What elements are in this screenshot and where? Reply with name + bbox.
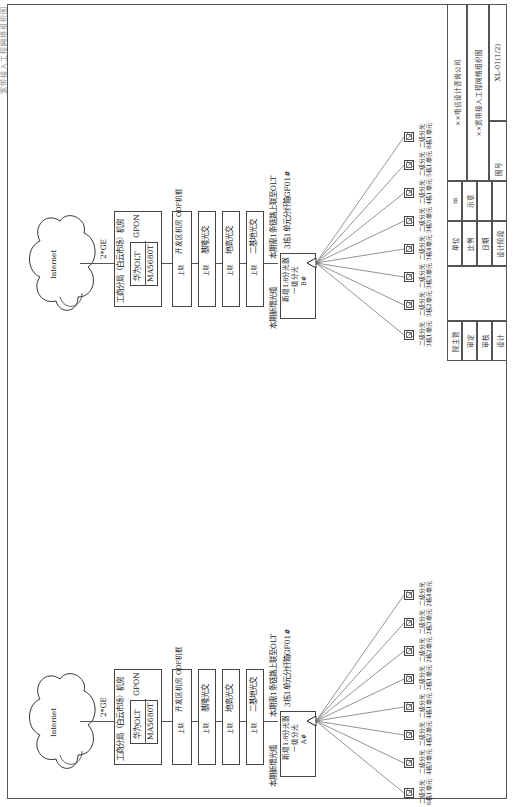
olt-vendor: 华为OLT [134,709,143,739]
cross-box-label: 二基地光交 [250,219,259,254]
olt-device-box: 华为OLT MA5680T [130,700,158,744]
fiber-cross-box: 地高光交 上联 [222,211,240,307]
splitter-id: B# [301,276,308,286]
secondary-splitter-icon [404,674,414,684]
uplink-note: 本期需1条链路上联至OLT [270,176,279,259]
field-label: 比例 [462,221,477,266]
splitter-triangle-icon [306,257,318,269]
secondary-splitter-icon [404,160,414,170]
secondary-splitter-icon [404,702,414,712]
internet-cloud-icon [18,209,104,319]
olt-tech: GPON [133,672,142,696]
splitter-type: 新增1:8分光器 [283,715,290,760]
secondary-splitter-label: 二级分光4栋1单元 [418,179,432,205]
secondary-splitter-label: 二级分光3栋3单元 [418,263,432,289]
role-cell: 设计 [492,321,507,361]
fiber-cross-box: 二基地光交 上联 [246,211,264,307]
odf-box-label: 开发区机房 ODF机框 [176,188,183,254]
secondary-splitter-icon [404,646,414,656]
secondary-splitter-icon [404,188,414,198]
cross-box-label: 地高光交 [226,226,235,254]
drawing-no-label: 图号 [489,121,507,181]
cross-box-label: 二基地光交 [250,677,259,712]
odf-uplink-tag: 上联 [228,264,234,276]
signature-area [447,266,507,321]
odf-uplink-tag: 上联 [204,264,210,276]
splitter-id: A# [301,734,308,744]
cross-box-label: 地高光交 [226,684,235,712]
field-label: 设计阶段 [492,221,507,266]
olt-model: MA5680T [147,245,156,282]
drawing-sheet: 宽带接入工程网络组织图 Internet 2*GE 工商分局（白云市场）机房 华… [0,0,514,807]
cross-box-label: 基隆光交 [202,226,211,254]
secondary-splitter-icon [404,300,414,310]
odf-uplink-tag: 上联 [179,264,185,276]
secondary-splitter-icon [404,244,414,254]
link-label: 2*GE [100,239,109,259]
secondary-splitter-icon [404,730,414,740]
secondary-splitter-label: 二级分光2栋1单元 [418,665,432,691]
fiber-cross-box: 地高光交 上联 [222,669,240,765]
cabinet-note: 3栋1单元分纤箱GF01# [284,170,293,249]
fiber-cross-box: 基隆光交 上联 [198,669,216,765]
field-value: m [447,181,462,221]
odf-uplink-tag: 上联 [252,722,258,734]
olt-tech: GPON [133,214,142,238]
internet-label: Internet [50,708,58,737]
secondary-splitter-label: 二级分光4栋1单元 [418,693,432,719]
odf-box-label: 开发区机房 ODF机框 [176,646,183,712]
secondary-splitter-label: 二级分光3栋1单元 [418,321,432,347]
drawing-number: XL-01(1/2) [489,4,507,121]
secondary-splitter-label: 二级分光2栋4单元 [418,581,432,607]
secondary-splitter-label: 二级分光2栋3单元 [418,609,432,635]
role-cell: 院主管 [447,321,462,361]
uplink-note: 本期需1条链路上联至OLT [270,634,279,717]
odf-uplink-tag: 上联 [228,722,234,734]
secondary-splitter-icon [404,788,414,798]
role-cell: 审定 [462,321,477,361]
secondary-splitter-label: 二级分光6栋1单元 [418,779,432,805]
olt-model: MA5680T [147,703,156,740]
olt-vendor: 华为OLT [134,251,143,281]
odf-box: 开发区机房 ODF机框 上联 [172,669,192,765]
splitter-triangle-icon [306,715,318,727]
secondary-splitter-label: 二级分光4栋2单元 [418,721,432,747]
splitter-level: 一级分光 [292,266,299,294]
new-cable-label: 本期新增光缆 [270,745,279,787]
role-cell: 审核 [477,321,492,361]
secondary-splitter-label: 二级分光2栋2单元 [418,637,432,663]
field-value [492,181,507,221]
secondary-splitter-label: 二级分光4栋3单元 [418,749,432,775]
olt-room-box: 工商分局（白云市场）机房 华为OLT MA5680T GPON [114,211,162,307]
secondary-splitter-icon [404,132,414,142]
odf-uplink-tag: 上联 [204,722,210,734]
olt-room-title: 工商分局（白云市场）机房 [117,677,126,761]
secondary-splitter-icon [404,272,414,282]
internet-cloud-icon [18,667,104,777]
cabinet-note: 3栋1单元分纤箱GF01# [284,628,293,707]
field-value: 示意 [462,181,477,221]
fiber-cross-box: 二基地光交 上联 [246,669,264,765]
secondary-splitter-label: 二级分光5栋1单元 [418,151,432,177]
field-value [477,181,492,221]
olt-room-title: 工商分局（白云市场）机房 [117,219,126,303]
fiber-cross-box: 基隆光交 上联 [198,211,216,307]
field-label: 单位 [447,221,462,266]
secondary-splitter-icon [404,758,414,768]
secondary-splitter-label: 二级分光3栋2单元 [418,291,432,317]
field-label: 日期 [477,221,492,266]
secondary-splitter-icon [404,618,414,628]
secondary-splitter-label: 二级分光3栋4单元 [418,235,432,261]
olt-device-box: 华为OLT MA5680T [130,242,158,286]
new-cable-label: 本期新增光缆 [270,287,279,329]
secondary-splitter-icon [404,590,414,600]
odf-uplink-tag: 上联 [252,264,258,276]
cross-box-label: 基隆光交 [202,684,211,712]
odf-uplink-tag: 上联 [179,722,185,734]
secondary-splitter-icon [404,216,414,226]
secondary-splitter-label: 二级分光3栋5单元 [418,207,432,233]
secondary-splitter-icon [404,330,414,340]
olt-room-box: 工商分局（白云市场）机房 华为OLT MA5680T GPON [114,669,162,765]
link-label: 2*GE [100,697,109,717]
splitter-type: 新增1:8分光器 [283,257,290,302]
